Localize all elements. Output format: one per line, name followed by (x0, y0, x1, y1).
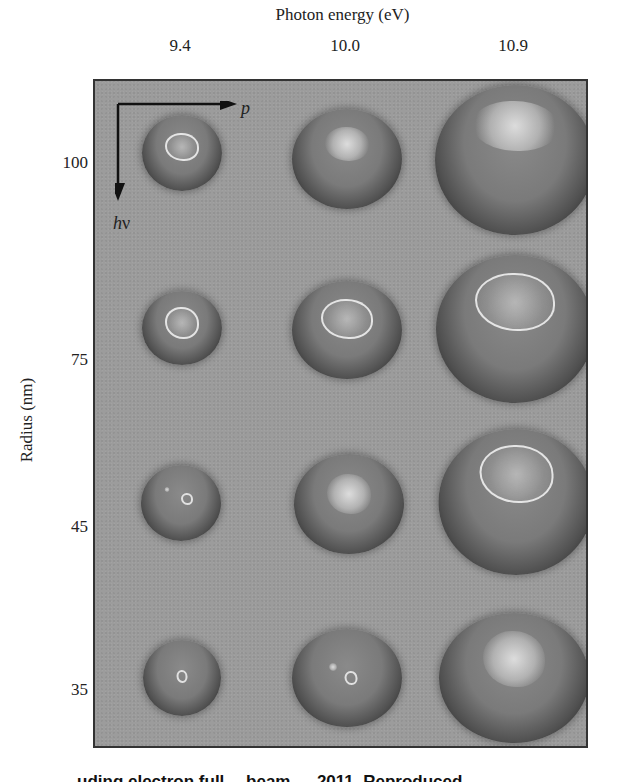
image-r75-e10-9 (436, 255, 588, 403)
image-r100-e10-0 (292, 109, 402, 209)
image-r100-e10-9 (435, 85, 588, 235)
row-label-45: 45 (48, 517, 88, 537)
row-label-35: 35 (48, 680, 88, 700)
image-r75-e10-0 (292, 281, 402, 379)
momentum-axis-label: p (241, 98, 250, 119)
row-label-75: 75 (48, 350, 88, 370)
image-r35-e9-4 (143, 640, 221, 716)
row-label-100: 100 (48, 153, 88, 173)
image-r45-e10-9 (439, 429, 589, 575)
photon-energy-axis-label: hν (113, 213, 130, 234)
column-label-9-4: 9.4 (169, 36, 190, 56)
image-r45-e10-0 (294, 454, 404, 554)
y-axis-title: Radius (nm) (17, 378, 37, 463)
image-r35-e10-0 (292, 629, 402, 727)
image-panel: p hν (93, 79, 588, 748)
image-r100-e9-4 (142, 115, 222, 191)
x-axis-title: Photon energy (eV) (0, 5, 625, 25)
column-label-10-9: 10.9 (498, 36, 528, 56)
image-r45-e9-4 (141, 465, 221, 541)
column-label-10-0: 10.0 (330, 36, 360, 56)
figure-caption-clipped: …uding electron full… beam … 2011. Repro… (60, 771, 625, 782)
image-r75-e9-4 (142, 291, 222, 365)
image-r35-e10-9 (439, 613, 588, 743)
